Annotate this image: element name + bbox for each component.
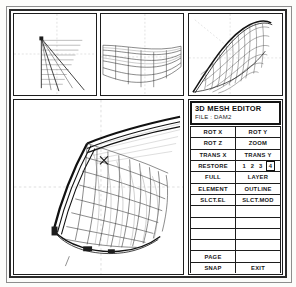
page-option-1[interactable]: 1 bbox=[241, 162, 246, 170]
button-trans-y[interactable]: TRANS Y bbox=[236, 150, 280, 160]
page-selector-group: 1 2 3 4 bbox=[236, 161, 280, 171]
button-zoom[interactable]: ZOOM bbox=[236, 138, 280, 148]
page-option-3[interactable]: 3 bbox=[258, 162, 263, 170]
menu-row bbox=[191, 229, 280, 240]
button-exit[interactable]: EXIT bbox=[236, 263, 280, 273]
page-option-2[interactable]: 2 bbox=[250, 162, 255, 170]
button-empty-right[interactable] bbox=[236, 240, 280, 250]
button-page[interactable]: PAGE bbox=[191, 251, 236, 261]
menu-row bbox=[191, 240, 280, 251]
app-title: 3D MESH EDITOR bbox=[195, 104, 276, 113]
viewport-perspective[interactable] bbox=[188, 13, 283, 96]
button-empty-left[interactable] bbox=[191, 240, 236, 250]
button-select-model[interactable]: SLCT.MOD bbox=[236, 195, 280, 205]
menu-row: ROT Z ZOOM bbox=[191, 138, 280, 149]
button-empty-right[interactable] bbox=[236, 206, 280, 216]
menu-row: TRANS X TRANS Y bbox=[191, 150, 280, 161]
panel-title-box: 3D MESH EDITOR FILE : DAM2 bbox=[190, 101, 281, 125]
button-layer[interactable]: LAYER bbox=[236, 172, 280, 182]
menu-row: PAGE bbox=[191, 251, 280, 262]
button-empty-left[interactable] bbox=[191, 206, 236, 216]
button-rot-x[interactable]: ROT X bbox=[191, 127, 236, 137]
button-empty-right[interactable] bbox=[236, 251, 280, 261]
menu-row: SNAP EXIT bbox=[191, 263, 280, 273]
menu-rows: ROT X ROT Y ROT Z ZOOM TRANS X TRANS Y R… bbox=[190, 126, 281, 273]
menu-panel: 3D MESH EDITOR FILE : DAM2 ROT X ROT Y R… bbox=[188, 99, 283, 275]
menu-row: SLCT.EL SLCT.MOD bbox=[191, 195, 280, 206]
viewport-main-perspective[interactable] bbox=[13, 99, 184, 275]
button-snap[interactable]: SNAP bbox=[191, 263, 236, 273]
button-empty-left[interactable] bbox=[191, 218, 236, 228]
button-outline[interactable]: OUTLINE bbox=[236, 184, 280, 194]
menu-row: FULL LAYER bbox=[191, 172, 280, 183]
button-empty-right[interactable] bbox=[236, 229, 280, 239]
button-select-element[interactable]: SLCT.EL bbox=[191, 195, 236, 205]
file-label: FILE : DAM2 bbox=[195, 113, 276, 121]
menu-row bbox=[191, 206, 280, 217]
menu-row bbox=[191, 218, 280, 229]
button-rot-y[interactable]: ROT Y bbox=[236, 127, 280, 137]
viewport-front-elevation[interactable] bbox=[13, 13, 97, 96]
page-option-4-selected[interactable]: 4 bbox=[266, 161, 274, 171]
menu-row: ELEMENT OUTLINE bbox=[191, 184, 280, 195]
button-empty-left[interactable] bbox=[191, 229, 236, 239]
button-restore[interactable]: RESTORE bbox=[191, 161, 236, 171]
menu-row: RESTORE 1 2 3 4 bbox=[191, 161, 280, 172]
button-full[interactable]: FULL bbox=[191, 172, 236, 182]
application-window: 3D MESH EDITOR FILE : DAM2 ROT X ROT Y R… bbox=[0, 0, 296, 287]
button-rot-z[interactable]: ROT Z bbox=[191, 138, 236, 148]
button-empty-right[interactable] bbox=[236, 218, 280, 228]
page-selector[interactable]: 1 2 3 4 bbox=[236, 161, 280, 171]
viewport-plan-top[interactable] bbox=[100, 13, 184, 96]
button-element[interactable]: ELEMENT bbox=[191, 184, 236, 194]
menu-row: ROT X ROT Y bbox=[191, 127, 280, 138]
button-trans-x[interactable]: TRANS X bbox=[191, 150, 236, 160]
